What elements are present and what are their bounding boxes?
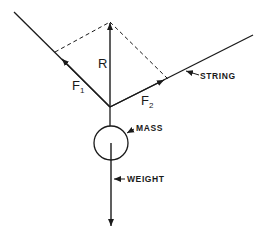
label-f2-subscript: 2 [149,101,154,110]
label-f1-subscript: 1 [80,86,85,95]
label-mass: MASS [136,123,163,133]
force-diagram: R F 1 F 2 STRING MASS WEIGHT [0,0,264,235]
f2-vector-arrow [110,80,164,107]
mass-pointer-icon [127,129,134,133]
label-f1: F [72,78,80,93]
label-f2: F [141,93,149,108]
label-r: R [98,56,107,71]
label-string: STRING [200,71,236,81]
string-pointer-icon [186,71,199,75]
dashed-parallelogram-right [110,22,168,79]
label-weight: WEIGHT [127,174,165,184]
dashed-parallelogram-left [55,22,110,52]
